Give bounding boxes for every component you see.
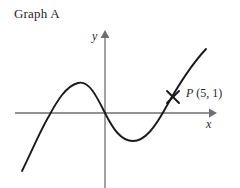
point-p-coordinates: (5, 1) <box>196 86 222 100</box>
cross-marker-icon <box>167 91 179 103</box>
point-p-label: P (5, 1) <box>186 87 222 100</box>
arrow-up-icon <box>101 30 110 38</box>
x-axis-label: x <box>206 118 211 130</box>
cubic-curve <box>22 49 206 171</box>
y-axis-label: y <box>92 30 97 42</box>
graph-figure: Graph A y x P (5, 1) <box>0 0 240 188</box>
